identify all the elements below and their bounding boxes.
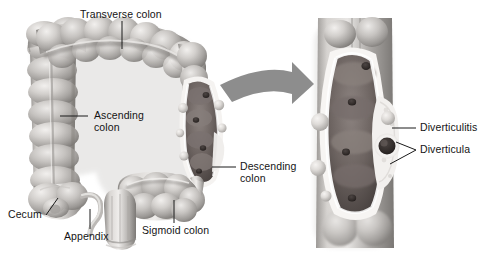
label-diverticula: Diverticula [420, 144, 470, 156]
label-descending-colon: Descending colon [240, 161, 296, 184]
label-transverse-colon: Transverse colon [80, 9, 162, 21]
label-sigmoid-colon: Sigmoid colon [142, 225, 209, 237]
magnified-inset [310, 17, 400, 248]
label-ascending-colon: Ascending colon [94, 110, 144, 133]
label-appendix: Appendix [64, 231, 109, 243]
label-cecum: Cecum [8, 209, 42, 221]
label-diverticulitis: Diverticulitis [420, 122, 477, 134]
diverticulitis-figure [0, 0, 489, 259]
